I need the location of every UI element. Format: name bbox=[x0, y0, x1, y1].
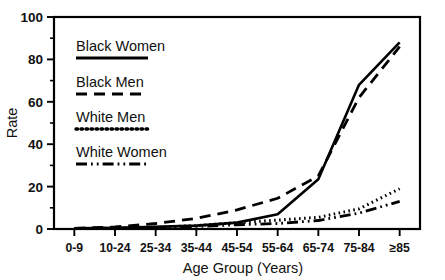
series-line-black-women bbox=[74, 42, 399, 228]
y-axis-title: Rate bbox=[4, 108, 20, 139]
legend-label-black-men: Black Men bbox=[76, 74, 144, 90]
x-axis-title: Age Group (Years) bbox=[183, 260, 303, 276]
x-tick-label-5: 55-64 bbox=[262, 241, 293, 255]
y-axis-tick-labels: 020406080100 bbox=[20, 10, 43, 237]
legend-label-black-women: Black Women bbox=[76, 38, 165, 54]
x-tick-label-3: 35-44 bbox=[181, 241, 212, 255]
x-tick-label-1: 10-24 bbox=[99, 241, 130, 255]
x-tick-label-2: 25-34 bbox=[140, 241, 171, 255]
data-series-group bbox=[74, 42, 399, 228]
legend-label-white-men: White Men bbox=[76, 109, 145, 125]
series-line-white-women bbox=[74, 201, 399, 228]
legend: Black WomenBlack MenWhite MenWhite Women bbox=[76, 38, 167, 164]
y-tick-label-100: 100 bbox=[20, 10, 43, 25]
x-tick-label-7: 75-84 bbox=[343, 241, 374, 255]
legend-label-white-women: White Women bbox=[76, 144, 167, 160]
y-tick-label-40: 40 bbox=[28, 137, 43, 152]
y-tick-label-80: 80 bbox=[28, 52, 43, 67]
x-axis-tick-labels: 0-910-2425-3435-4445-5455-6465-7475-84≥8… bbox=[66, 241, 410, 255]
y-tick-label-60: 60 bbox=[28, 95, 43, 110]
x-tick-label-4: 45-54 bbox=[221, 241, 252, 255]
x-tick-label-0: 0-9 bbox=[66, 241, 84, 255]
line-chart: 020406080100 0-910-2425-3435-4445-5455-6… bbox=[0, 0, 445, 280]
chart-figure: 020406080100 0-910-2425-3435-4445-5455-6… bbox=[0, 0, 445, 280]
y-tick-label-20: 20 bbox=[28, 180, 43, 195]
x-tick-label-6: 65-74 bbox=[303, 241, 334, 255]
x-tick-label-8: ≥85 bbox=[390, 241, 410, 255]
y-tick-label-0: 0 bbox=[35, 222, 43, 237]
